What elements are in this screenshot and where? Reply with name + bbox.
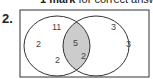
- intersection-value: 5: [73, 38, 78, 48]
- intersection-value: 2: [81, 51, 86, 61]
- left-only-value: 2: [36, 39, 41, 49]
- right-only-value: 3: [126, 39, 131, 49]
- venn-diagram: 11 2 2 5 2 3 3: [0, 0, 153, 79]
- right-only-value: 3: [111, 22, 116, 32]
- left-only-value: 11: [52, 22, 61, 32]
- left-only-value: 2: [55, 55, 60, 65]
